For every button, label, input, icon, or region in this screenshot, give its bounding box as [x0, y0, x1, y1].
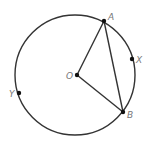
- point-O: [75, 73, 79, 77]
- point-X: [130, 57, 134, 61]
- point-A: [102, 19, 106, 23]
- point-Y: [17, 91, 21, 95]
- point-B: [121, 110, 125, 114]
- label-A: A: [107, 12, 114, 22]
- segments: [77, 21, 123, 112]
- label-O: O: [66, 71, 73, 81]
- points: [17, 19, 134, 114]
- labels: A X O Y B: [9, 12, 143, 120]
- circle-diagram: A X O Y B: [0, 0, 147, 147]
- label-B: B: [127, 110, 133, 120]
- label-Y: Y: [9, 89, 16, 99]
- segment-OA: [77, 21, 104, 75]
- label-X: X: [135, 55, 143, 65]
